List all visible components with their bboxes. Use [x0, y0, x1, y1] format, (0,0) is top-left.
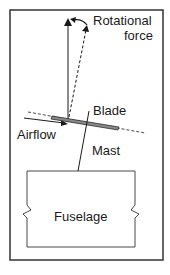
tilted-arrowhead-icon	[82, 25, 89, 32]
blade-label: Blade	[93, 104, 126, 117]
fuselage-label: Fuselage	[54, 210, 107, 223]
airflow-label: Airflow	[17, 128, 56, 141]
mast-line	[78, 111, 89, 171]
rotational-force-label-line2: force	[124, 29, 153, 42]
mast-label: Mast	[92, 144, 120, 157]
rotation-arrowhead-icon	[70, 17, 76, 23]
tilted-force-line	[68, 30, 86, 122]
rotational-force-label-line1: Rotational	[93, 14, 152, 27]
